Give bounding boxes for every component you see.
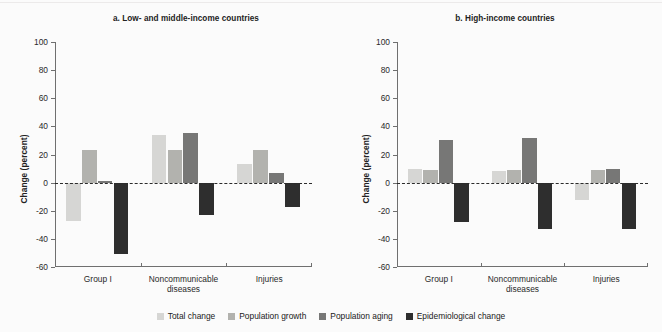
panel-b-y-tick	[393, 239, 397, 240]
panel-b-y-tick	[393, 267, 397, 268]
panel-b-y-tick-label: 20	[381, 150, 390, 160]
bar-population-growth	[168, 150, 183, 182]
legend-item-population-growth[interactable]: Population growth	[228, 311, 306, 321]
bar-total-change	[492, 171, 506, 182]
panel-a-y-tick	[51, 155, 55, 156]
panel-b-y-tick-label: 40	[381, 121, 390, 131]
bar-epidemiological-change	[622, 183, 636, 229]
panel-a-y-tick	[51, 42, 55, 43]
bar-total-change	[152, 135, 167, 183]
bar-population-growth	[82, 150, 97, 182]
panel-a-y-axis-label: Change (percent)	[19, 114, 29, 224]
x-axis-separator	[141, 263, 142, 267]
x-category-label: Group I	[84, 274, 112, 284]
panel-a-y-tick-label: 20	[39, 150, 48, 160]
legend-item-population-aging[interactable]: Population aging	[319, 311, 392, 321]
panel-a-y-tick	[51, 126, 55, 127]
bar-population-aging	[522, 138, 536, 183]
legend-swatch-icon	[157, 313, 164, 320]
panel-a-y-tick	[51, 239, 55, 240]
bar-group: Injuries	[226, 42, 312, 267]
figure-canvas: a. Low- and middle-income countries Chan…	[0, 0, 662, 332]
bar-total-change	[237, 164, 252, 182]
bar-population-growth	[591, 170, 605, 183]
panel-a-y-tick-label: 0	[43, 178, 48, 188]
panel-b-y-tick	[393, 70, 397, 71]
panel-b-y-tick-label: -40	[378, 234, 390, 244]
legend-swatch-icon	[319, 313, 326, 320]
bar-epidemiological-change	[199, 183, 214, 215]
bar-population-aging	[606, 169, 620, 183]
chart-panel-b: b. High-income countries Change (percent…	[336, 14, 662, 306]
panel-a-title: a. Low- and middle-income countries	[0, 14, 336, 23]
legend-label: Epidemiological change	[417, 311, 505, 321]
bar-population-growth	[423, 170, 437, 183]
panel-b-y-axis-label: Change (percent)	[361, 114, 371, 224]
bar-epidemiological-change	[538, 183, 552, 229]
panel-b-y-tick-label: 0	[385, 178, 390, 188]
bar-group: Noncommunicablediseases	[481, 42, 565, 267]
x-category-label: Group I	[425, 274, 453, 284]
panel-a-y-tick-label: 40	[39, 121, 48, 131]
bar-epidemiological-change	[285, 183, 300, 207]
bar-group: Noncommunicablediseases	[141, 42, 227, 267]
panel-a-y-tick-label: -20	[36, 206, 48, 216]
panel-b-y-tick	[393, 126, 397, 127]
x-axis-separator	[226, 263, 227, 267]
legend-item-total-change[interactable]: Total change	[157, 311, 216, 321]
panel-b-plot-area: Group INoncommunicablediseasesInjuries 1…	[397, 42, 648, 267]
panel-a-zero-line	[55, 183, 312, 184]
x-axis-separator	[564, 263, 565, 267]
legend-swatch-icon	[406, 313, 413, 320]
x-category-label: Injuries	[593, 274, 620, 284]
chart-legend: Total changePopulation growthPopulation …	[0, 311, 662, 321]
page-rule	[0, 2, 662, 3]
x-axis-separator	[311, 263, 312, 267]
bar-population-aging	[439, 140, 453, 182]
panel-b-y-tick	[393, 98, 397, 99]
bar-population-growth	[507, 170, 521, 183]
legend-label: Total change	[168, 311, 216, 321]
x-category-label: Noncommunicablediseases	[488, 274, 557, 294]
panel-a-y-tick	[51, 211, 55, 212]
bar-total-change	[575, 183, 589, 200]
panel-a-y-tick-label: -60	[36, 262, 48, 272]
panel-b-zero-line	[397, 183, 648, 184]
x-axis-separator	[481, 263, 482, 267]
bar-epidemiological-change	[114, 183, 129, 255]
x-category-label: Injuries	[256, 274, 283, 284]
bar-group: Group I	[55, 42, 141, 267]
bar-total-change	[66, 183, 81, 221]
panel-a-y-tick	[51, 267, 55, 268]
bar-group: Group I	[397, 42, 481, 267]
bar-population-growth	[253, 150, 268, 182]
panel-a-bar-groups: Group INoncommunicablediseasesInjuries	[55, 42, 312, 267]
panel-b-y-tick	[393, 42, 397, 43]
panel-b-y-tick-label: -20	[378, 206, 390, 216]
panel-b-y-tick	[393, 211, 397, 212]
panel-b-y-tick	[393, 155, 397, 156]
panel-a-y-tick-label: -40	[36, 234, 48, 244]
panel-b-bar-groups: Group INoncommunicablediseasesInjuries	[397, 42, 648, 267]
bar-epidemiological-change	[454, 183, 468, 222]
legend-swatch-icon	[228, 313, 235, 320]
x-axis-separator	[647, 263, 648, 267]
panel-a-y-tick-label: 100	[34, 37, 48, 47]
panel-a-y-tick-label: 60	[39, 93, 48, 103]
legend-label: Population growth	[239, 311, 306, 321]
x-category-label: Noncommunicablediseases	[149, 274, 218, 294]
panel-a-y-tick-label: 80	[39, 65, 48, 75]
panel-b-title: b. High-income countries	[336, 14, 662, 23]
legend-item-epidemiological-change[interactable]: Epidemiological change	[406, 311, 505, 321]
bar-population-aging	[183, 133, 198, 182]
bar-total-change	[408, 169, 422, 183]
panel-b-y-tick-label: -60	[378, 262, 390, 272]
panel-b-y-tick-label: 100	[376, 37, 390, 47]
panel-a-y-tick	[51, 70, 55, 71]
panel-a-plot-area: Group INoncommunicablediseasesInjuries 1…	[55, 42, 312, 267]
panel-b-y-tick-label: 80	[381, 65, 390, 75]
bar-population-aging	[269, 173, 284, 183]
legend-label: Population aging	[330, 311, 392, 321]
chart-panel-a: a. Low- and middle-income countries Chan…	[0, 14, 336, 306]
panel-a-y-tick	[51, 98, 55, 99]
